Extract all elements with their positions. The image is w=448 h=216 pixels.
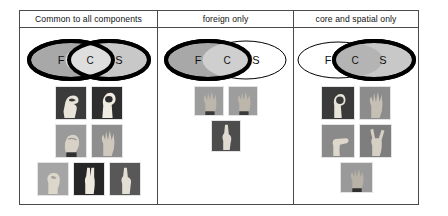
- image-grid-common-to-all: [20, 86, 157, 200]
- panel-header-row: Common to all components foreign only co…: [20, 11, 418, 28]
- venn-svg: F C S: [294, 35, 418, 85]
- image-grid-core-and-spatial-only: [294, 86, 418, 197]
- handshape-m3: [211, 120, 241, 152]
- handshape-f3: [55, 124, 87, 158]
- image-row: [20, 86, 157, 120]
- handshape-m1: [194, 86, 224, 116]
- venn-label-f: F: [57, 54, 64, 66]
- panel-common-to-all: F C S: [20, 28, 157, 205]
- handshape-r4: [359, 124, 392, 158]
- handshape-f7: [109, 162, 141, 196]
- panel-foreign-only: F C S: [157, 28, 293, 205]
- image-row: [158, 86, 293, 116]
- image-row: [294, 86, 418, 120]
- handshape-r5: [340, 162, 373, 193]
- image-row: [294, 124, 418, 158]
- venn-svg: F C S: [162, 35, 290, 85]
- venn-diagram-common-to-all: F C S: [20, 34, 157, 86]
- handshape-r1: [321, 86, 355, 120]
- image-row: [158, 120, 293, 152]
- venn-label-c: C: [223, 55, 230, 66]
- figure-frame: Common to all components foreign only co…: [19, 10, 419, 205]
- venn-diagram-core-and-spatial-only: F C S: [294, 34, 418, 86]
- image-row: [294, 162, 418, 193]
- handshape-f6: [73, 162, 105, 196]
- venn-svg: F C S: [25, 35, 153, 85]
- venn-label-f: F: [194, 54, 201, 66]
- panel-header-label: core and spatial only: [316, 14, 397, 24]
- image-grid-foreign-only: [158, 86, 293, 156]
- panel-body-row: F C S: [20, 28, 418, 205]
- venn-label-c: C: [86, 55, 93, 66]
- panel-header-core-and-spatial-only: core and spatial only: [293, 11, 418, 27]
- panel-core-and-spatial-only: F C S: [293, 28, 418, 205]
- venn-label-c: C: [351, 55, 358, 66]
- panel-header-foreign-only: foreign only: [157, 11, 293, 27]
- panel-header-label: Common to all components: [35, 14, 142, 24]
- image-row: [20, 162, 157, 196]
- handshape-f4: [91, 124, 123, 158]
- venn-label-f: F: [325, 54, 332, 66]
- venn-label-s: S: [115, 54, 122, 66]
- handshape-r2: [359, 86, 391, 120]
- handshape-r3: [321, 124, 355, 158]
- venn-label-s: S: [252, 54, 259, 66]
- image-row: [20, 124, 157, 158]
- handshape-f2: [91, 86, 123, 120]
- handshape-m2: [228, 86, 258, 116]
- handshape-f1: [55, 86, 87, 120]
- handshape-f5: [37, 162, 69, 196]
- venn-diagram-foreign-only: F C S: [158, 34, 293, 86]
- panel-header-label: foreign only: [203, 14, 249, 24]
- panel-header-common-to-all: Common to all components: [20, 11, 157, 27]
- venn-label-s: S: [379, 54, 386, 66]
